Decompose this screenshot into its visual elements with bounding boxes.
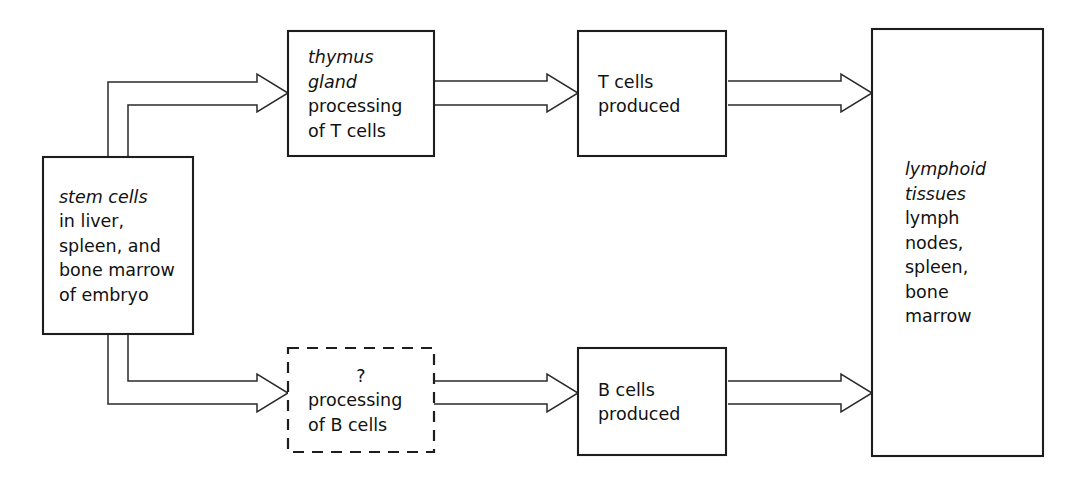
b-cells-produced-box-line-1: produced bbox=[598, 404, 680, 424]
lymphoid-tissues-box-line-4: spleen, bbox=[905, 257, 968, 277]
arrow-thymus-gland-to-t-cells-produced bbox=[434, 74, 578, 112]
stem-cells-box-line-2: spleen, and bbox=[59, 236, 161, 256]
thymus-gland-box-line-3: of T cells bbox=[308, 121, 386, 141]
arrow-stem-cells-to-thymus-gland bbox=[108, 74, 288, 157]
stem-cells-box: stem cellsin liver,spleen, andbone marro… bbox=[43, 157, 193, 334]
stem-cells-box-line-1: in liver, bbox=[59, 211, 124, 231]
lymphoid-tissues-box-line-3: nodes, bbox=[905, 233, 963, 253]
flow-diagram: stem cellsin liver,spleen, andbone marro… bbox=[0, 0, 1078, 486]
lymphoid-tissues-box-line-2: lymph bbox=[905, 208, 959, 228]
b-cells-produced-box-line-0: B cells bbox=[598, 380, 655, 400]
lymphoid-tissues-box-line-5: bone bbox=[905, 282, 949, 302]
b-cell-processing-box: ?processingof B cells bbox=[288, 348, 434, 452]
b-cells-produced-box-border bbox=[578, 348, 726, 455]
arrow-t-cells-produced-to-lymphoid-tissues bbox=[728, 74, 872, 112]
b-cells-produced-box: B cellsproduced bbox=[578, 348, 726, 455]
thymus-gland-box-line-0: thymus bbox=[308, 47, 374, 67]
arrow-stem-cells-to-b-cell-processing bbox=[108, 334, 288, 412]
thymus-gland-box-line-2: processing bbox=[308, 96, 402, 116]
lymphoid-tissues-box-line-6: marrow bbox=[905, 306, 972, 326]
b-cell-processing-box-line-1: processing bbox=[308, 390, 402, 410]
b-cell-processing-box-line-2: of B cells bbox=[308, 415, 387, 435]
flow-diagram-canvas: stem cellsin liver,spleen, andbone marro… bbox=[0, 0, 1078, 486]
arrow-b-cell-processing-to-b-cells-produced bbox=[434, 374, 578, 412]
arrows-layer bbox=[108, 74, 872, 412]
thymus-gland-box-line-1: gland bbox=[308, 72, 358, 92]
b-cell-processing-box-line-0: ? bbox=[356, 366, 365, 386]
lymphoid-tissues-box-line-0: lymphoid bbox=[905, 159, 987, 179]
t-cells-produced-box-border bbox=[578, 31, 726, 156]
arrow-b-cells-produced-to-lymphoid-tissues bbox=[728, 374, 872, 412]
thymus-gland-box: thymusglandprocessingof T cells bbox=[288, 31, 434, 156]
t-cells-produced-box: T cellsproduced bbox=[578, 31, 726, 156]
t-cells-produced-box-line-1: produced bbox=[598, 96, 680, 116]
stem-cells-box-line-4: of embryo bbox=[59, 285, 149, 305]
lymphoid-tissues-box: lymphoidtissueslymphnodes,spleen,bonemar… bbox=[872, 29, 1043, 456]
t-cells-produced-box-line-0: T cells bbox=[597, 72, 653, 92]
lymphoid-tissues-box-line-1: tissues bbox=[905, 184, 966, 204]
stem-cells-box-line-3: bone marrow bbox=[59, 260, 175, 280]
stem-cells-box-line-0: stem cells bbox=[59, 187, 148, 207]
